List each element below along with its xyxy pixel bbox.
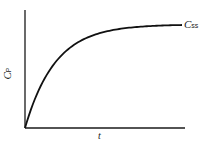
steady-state-label-subscript: ss <box>191 22 198 29</box>
chart-canvas <box>0 0 205 146</box>
y-axis-label-main: C <box>1 72 13 79</box>
concentration-curve <box>25 25 182 128</box>
y-axis-label-subscript: P <box>5 67 12 72</box>
y-axis-label: CP <box>2 67 13 79</box>
steady-state-label: Css <box>184 19 198 30</box>
x-axis-label: t <box>98 131 101 141</box>
